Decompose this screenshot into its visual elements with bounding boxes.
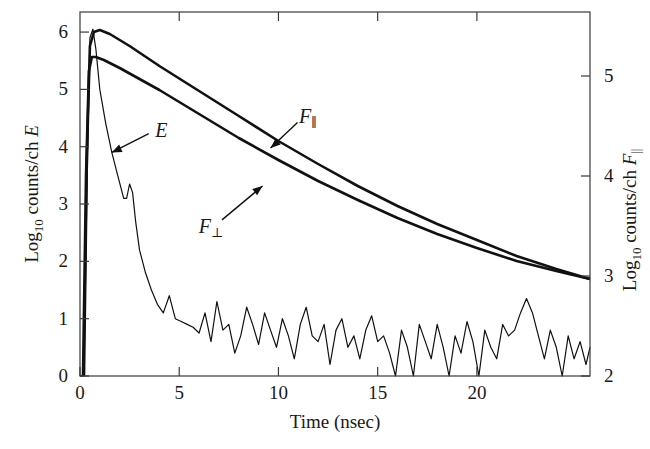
right-y-tick-label: 5 (604, 65, 614, 86)
x-tick-label: 5 (174, 382, 184, 403)
curve-label-f-perp: F⊥ (198, 215, 223, 240)
left-y-tick-label: 6 (59, 21, 69, 42)
left-y-tick-label: 2 (59, 250, 69, 271)
right-y-axis-ticks: 2345 (581, 65, 614, 386)
x-tick-label: 15 (368, 382, 387, 403)
decay-chart: 05101520 0123456 2345 EF⊥F∥ Time (nsec) … (0, 0, 650, 449)
arrowhead-icon (112, 145, 123, 153)
series-e-line (80, 29, 590, 376)
curve-label-e: E (154, 119, 167, 141)
curve-label-f-par: F∥ (298, 105, 317, 130)
chart-svg: 05101520 0123456 2345 EF⊥F∥ Time (nsec) … (0, 0, 650, 449)
right-y-tick-label: 3 (604, 265, 614, 286)
x-axis-title: Time (nsec) (290, 411, 381, 433)
left-y-tick-label: 1 (59, 308, 69, 329)
left-y-axis-title: Log10 counts/ch E (21, 125, 46, 263)
x-tick-label: 0 (75, 382, 85, 403)
left-y-tick-label: 5 (59, 78, 69, 99)
left-y-tick-label: 4 (59, 136, 69, 157)
plot-frame (80, 12, 590, 376)
curve-annotations: EF⊥F∥ (112, 105, 318, 240)
x-axis-ticks: 05101520 (75, 12, 486, 403)
right-y-tick-label: 2 (604, 365, 614, 386)
x-tick-label: 10 (269, 382, 288, 403)
right-y-axis-title: Log10 counts/ch F|| (619, 149, 644, 291)
left-y-tick-label: 3 (59, 193, 69, 214)
left-y-tick-label: 0 (59, 365, 69, 386)
plot-curves (80, 29, 590, 376)
x-tick-label: 20 (467, 382, 486, 403)
series-f-par-line (84, 30, 590, 376)
right-y-tick-label: 4 (604, 165, 614, 186)
